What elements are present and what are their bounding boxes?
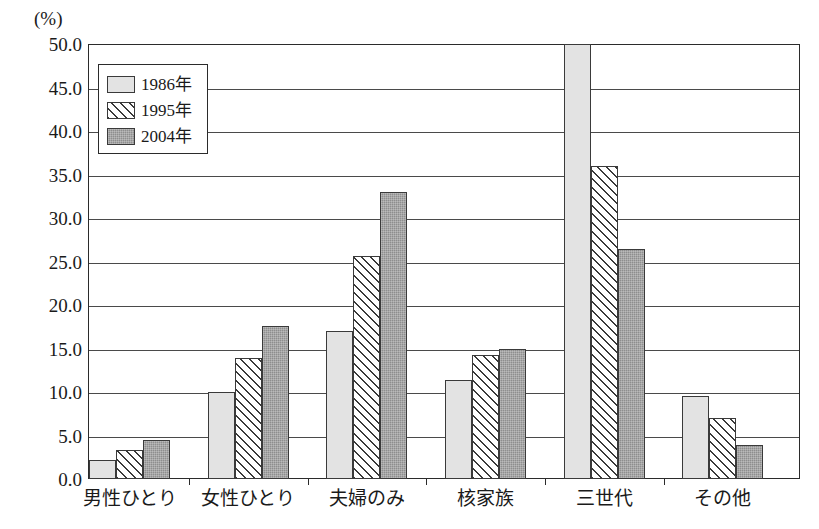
bar <box>682 396 709 479</box>
legend-item-2004: 2004年 <box>107 123 207 149</box>
bar <box>564 44 591 479</box>
legend-swatch-1995-icon <box>107 102 135 119</box>
bar <box>709 418 736 479</box>
legend-label-1986: 1986年 <box>141 76 192 93</box>
x-axis-tick <box>545 479 546 485</box>
bar <box>208 392 235 479</box>
x-axis-category-label: 核家族 <box>425 487 546 511</box>
x-axis-category-label: 夫婦のみ <box>306 487 427 511</box>
bar <box>472 355 499 479</box>
y-axis-tick-label: 40.0 <box>26 122 82 141</box>
legend-swatch-1986-icon <box>107 76 135 93</box>
bar <box>618 249 645 479</box>
y-axis-tick-label: 45.0 <box>26 79 82 98</box>
bar-group <box>445 44 526 479</box>
y-axis-tick-label: 25.0 <box>26 253 82 272</box>
bar-group <box>208 44 289 479</box>
y-axis-tick-label: 30.0 <box>26 209 82 228</box>
bar <box>143 440 170 479</box>
y-axis-tick-labels: 0.05.010.015.020.025.030.035.040.045.050… <box>0 0 82 529</box>
y-axis-tick-label: 5.0 <box>26 427 82 446</box>
bar <box>89 460 116 479</box>
legend-label-2004: 2004年 <box>141 128 192 145</box>
x-axis-category-label: 女性ひとり <box>188 487 309 511</box>
y-axis-tick-label: 10.0 <box>26 383 82 402</box>
bar-chart: (%) 0.05.010.015.020.025.030.035.040.045… <box>0 0 819 529</box>
x-axis-category-label: その他 <box>662 487 783 511</box>
legend-item-1986: 1986年 <box>107 71 207 97</box>
y-axis-tick-label: 20.0 <box>26 296 82 315</box>
x-axis-category-labels: 男性ひとり女性ひとり夫婦のみ核家族三世代その他 <box>88 487 800 521</box>
y-axis-tick-label: 15.0 <box>26 340 82 359</box>
x-axis-tick <box>308 479 309 485</box>
chart-legend: 1986年 1995年 2004年 <box>98 64 208 154</box>
legend-label-1995: 1995年 <box>141 102 192 119</box>
legend-swatch-2004-icon <box>107 128 135 145</box>
bar <box>262 326 289 479</box>
x-axis-tick <box>189 479 190 485</box>
bar-group <box>326 44 407 479</box>
bar-group <box>682 44 763 479</box>
y-axis-tick-label: 35.0 <box>26 166 82 185</box>
x-axis-tick <box>664 479 665 485</box>
x-axis-tick <box>426 479 427 485</box>
x-axis-category-label: 三世代 <box>544 487 665 511</box>
bar <box>116 450 143 479</box>
bar-group <box>564 44 645 479</box>
bar <box>499 349 526 480</box>
bar <box>591 166 618 479</box>
bar <box>326 331 353 479</box>
legend-item-1995: 1995年 <box>107 97 207 123</box>
y-axis-tick-label: 50.0 <box>26 35 82 54</box>
bar <box>380 192 407 479</box>
bar <box>353 256 380 479</box>
bar <box>445 380 472 479</box>
bar <box>736 445 763 479</box>
x-axis-category-label: 男性ひとり <box>69 487 190 511</box>
bar <box>235 358 262 479</box>
